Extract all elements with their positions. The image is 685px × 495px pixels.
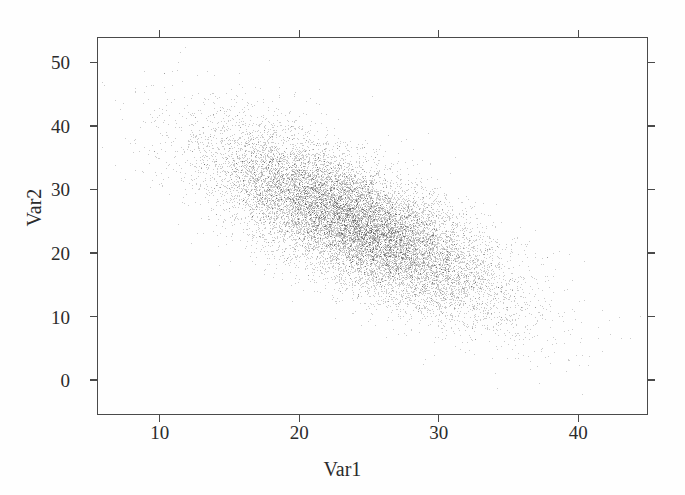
x-tick-label: 10 bbox=[150, 423, 169, 442]
y-axis-title: Var2 bbox=[23, 168, 46, 248]
x-tick-top bbox=[159, 30, 160, 37]
x-tick-bottom bbox=[578, 415, 579, 422]
x-tick-top bbox=[578, 30, 579, 37]
x-tick-bottom bbox=[299, 415, 300, 422]
y-tick-left bbox=[90, 62, 97, 63]
scatter-plot-figure: 1020304001020304050 Var1 Var2 bbox=[0, 0, 685, 495]
x-tick-bottom bbox=[438, 415, 439, 422]
x-tick-top bbox=[299, 30, 300, 37]
y-tick-right bbox=[648, 379, 655, 380]
y-tick-right bbox=[648, 316, 655, 317]
x-tick-label: 20 bbox=[290, 423, 309, 442]
y-tick-right bbox=[648, 189, 655, 190]
x-tick-label: 40 bbox=[569, 423, 588, 442]
y-tick-label: 50 bbox=[0, 53, 82, 72]
y-tick-left bbox=[90, 379, 97, 380]
y-tick-left bbox=[90, 125, 97, 126]
x-tick-label: 30 bbox=[429, 423, 448, 442]
x-axis-title: Var1 bbox=[0, 458, 685, 481]
plot-frame bbox=[97, 37, 648, 415]
y-tick-label: 10 bbox=[0, 307, 82, 326]
x-tick-bottom bbox=[159, 415, 160, 422]
y-tick-left bbox=[90, 252, 97, 253]
y-tick-label: 0 bbox=[0, 371, 82, 390]
y-tick-right bbox=[648, 62, 655, 63]
y-tick-left bbox=[90, 189, 97, 190]
y-tick-right bbox=[648, 252, 655, 253]
y-tick-label: 40 bbox=[0, 116, 82, 135]
y-tick-left bbox=[90, 316, 97, 317]
x-tick-top bbox=[438, 30, 439, 37]
y-tick-right bbox=[648, 125, 655, 126]
